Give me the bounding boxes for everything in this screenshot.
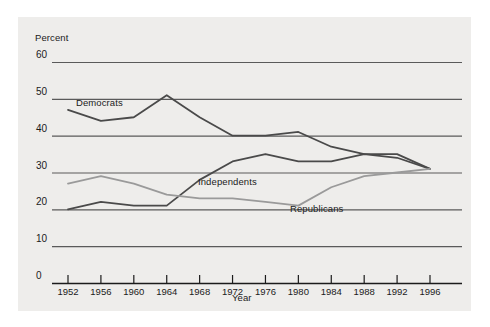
y-tick-label: 60 bbox=[36, 49, 58, 60]
y-tick-label: 30 bbox=[36, 160, 58, 171]
x-tick-label: 1996 bbox=[413, 286, 447, 297]
x-tick-label: 1956 bbox=[84, 286, 118, 297]
x-tick-label: 1976 bbox=[248, 286, 282, 297]
x-tick-label: 1960 bbox=[117, 286, 151, 297]
x-tick-label: 1988 bbox=[347, 286, 381, 297]
x-tick-label: 1992 bbox=[380, 286, 414, 297]
x-tick-label: 1964 bbox=[150, 286, 184, 297]
x-tick-label: 1968 bbox=[183, 286, 217, 297]
chart-figure: Percent Year 6050403020100 1952195619601… bbox=[0, 0, 490, 327]
x-tick-label: 1984 bbox=[314, 286, 348, 297]
y-tick-label: 20 bbox=[36, 196, 58, 207]
series-label-independents: Independents bbox=[198, 176, 257, 187]
series-line-republicans bbox=[68, 169, 430, 206]
chart-plot-area bbox=[0, 0, 490, 327]
series-label-republicans: Republicans bbox=[290, 203, 343, 214]
y-tick-label: 40 bbox=[36, 123, 58, 134]
y-tick-label: 0 bbox=[36, 270, 58, 281]
y-tick-label: 50 bbox=[36, 86, 58, 97]
data-series-group bbox=[68, 95, 430, 209]
y-axis-title: Percent bbox=[35, 32, 68, 43]
x-tick-label: 1972 bbox=[216, 286, 250, 297]
x-tick-label: 1980 bbox=[281, 286, 315, 297]
y-tick-label: 10 bbox=[36, 233, 58, 244]
series-label-democrats: Democrats bbox=[76, 97, 123, 108]
x-tick-label: 1952 bbox=[51, 286, 85, 297]
x-tick-marks-group bbox=[68, 275, 430, 283]
gridlines-group bbox=[52, 63, 462, 247]
